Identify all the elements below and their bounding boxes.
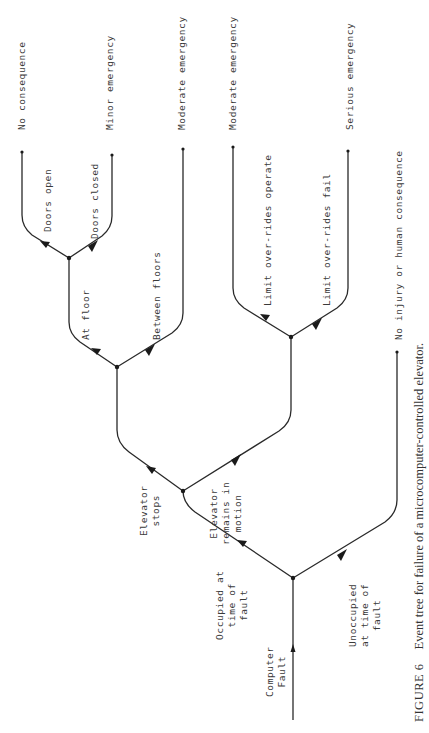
edge-at-floor [69,258,117,367]
endpoint-no-consequence [20,150,23,153]
endpoint-no-injury [395,350,398,353]
endpoint-minor-emergency [110,153,113,156]
outcome-no-injury: No injury or human consequence [393,150,405,340]
branch-elevator-in-motion: Elevator remains in motion [208,482,244,545]
branch-at-floor: At floor [80,289,92,340]
branch-occupied: Occupied at time of fault [214,570,250,640]
figure-caption-text: Event tree for failure of a microcompute… [412,343,426,650]
edge-elevator-in-motion [183,337,291,491]
node-root [291,576,295,580]
outcome-moderate-emergency-2: Moderate emergency [227,16,239,130]
arrow-icon [146,466,156,474]
endpoint-serious-emergency [346,149,349,152]
node-floor [115,365,119,369]
arrow-icon [145,344,155,356]
arrow-icon [91,348,101,355]
branch-unoccupied: Unoccupied at time of fault [347,584,383,647]
outcome-minor-emergency: Minor emergency [104,35,116,130]
node-doors [67,256,71,260]
arrow-icon [291,644,296,652]
node-limit [289,335,293,339]
arrow-icon [231,454,241,466]
outcome-serious-emergency: Serious emergency [344,23,356,130]
figure-caption: FIGURE 6Event tree for failure of a micr… [412,343,427,722]
outcome-no-consequence: No consequence [16,42,28,130]
edge-limit-fail [291,151,348,337]
outcome-moderate-emergency-1: Moderate emergency [176,16,188,130]
branch-elevator-stops: Elevator stops [138,485,162,536]
node-stops [181,489,185,493]
initiating-event-label: Computer Fault [264,646,288,697]
branch-doors-closed: Doors closed [89,163,101,239]
figure-number: FIGURE 6 [412,663,426,722]
arrow-icon [312,318,322,330]
edge-between-floors [117,149,183,367]
endpoint-moderate-emergency-2 [231,145,234,148]
arrow-icon [260,314,270,321]
branch-limit-operate: Limit over-rides operate [262,154,274,306]
endpoint-moderate-emergency-1 [181,147,184,150]
edge-elevator-stops [117,367,183,491]
branch-limit-fail: Limit over-rides fail [321,173,333,306]
branch-between-floors: Between floors [151,252,163,340]
branch-doors-open: Doors open [42,169,54,232]
edge-unoccupied [293,352,397,578]
